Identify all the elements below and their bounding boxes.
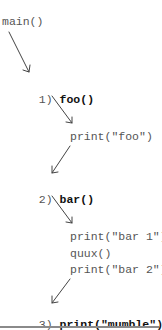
flow-arrows xyxy=(0,0,162,330)
arrow-icon xyxy=(52,196,72,223)
bottom-divider xyxy=(0,326,159,328)
arrow-icon xyxy=(52,146,70,173)
arrow-icon xyxy=(52,96,72,123)
arrow-icon xyxy=(52,279,70,303)
arrow-icon xyxy=(9,32,30,72)
